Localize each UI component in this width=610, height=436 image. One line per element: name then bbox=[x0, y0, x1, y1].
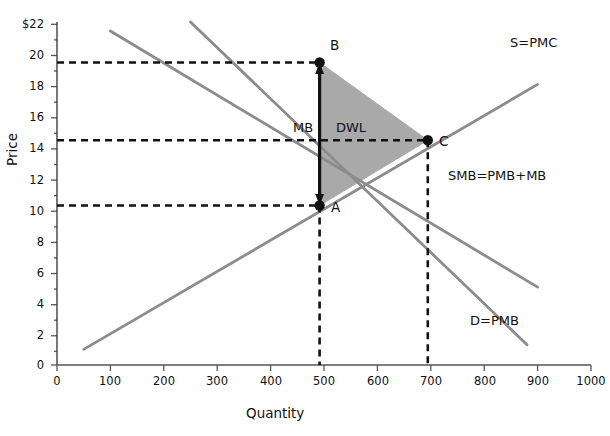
y-tick-label-18: 18 bbox=[10, 79, 44, 93]
point-a-label: A bbox=[331, 199, 340, 215]
point-b-marker bbox=[314, 57, 324, 67]
x-tick-label-900: 900 bbox=[516, 374, 560, 388]
x-axis-ticks bbox=[57, 365, 591, 371]
x-tick-label-0: 0 bbox=[35, 374, 79, 388]
x-tick-label-700: 700 bbox=[409, 374, 453, 388]
smb-curve-label: SMB=PMB+MB bbox=[448, 168, 546, 183]
point-c-label: C bbox=[439, 133, 448, 149]
x-axis-title: Quantity bbox=[246, 405, 304, 421]
y-tick-label-14: 14 bbox=[10, 141, 44, 155]
point-c-marker bbox=[423, 135, 433, 145]
y-tick-label-10: 10 bbox=[10, 204, 44, 218]
x-tick-label-300: 300 bbox=[195, 374, 239, 388]
y-tick-label-8: 8 bbox=[10, 235, 44, 249]
y-tick-label-16: 16 bbox=[10, 110, 44, 124]
dwl-label: DWL bbox=[336, 120, 366, 135]
x-tick-label-200: 200 bbox=[142, 374, 186, 388]
supply-curve-label: S=PMC bbox=[510, 35, 557, 50]
x-tick-label-1000: 1000 bbox=[569, 374, 610, 388]
y-tick-label-2: 2 bbox=[10, 328, 44, 342]
y-tick-label-0: 0 bbox=[10, 358, 44, 372]
demand-curve-label: D=PMB bbox=[470, 313, 519, 328]
y-tick-label-6: 6 bbox=[10, 266, 44, 280]
x-tick-label-600: 600 bbox=[356, 374, 400, 388]
point-a-marker bbox=[314, 200, 324, 210]
point-b-label: B bbox=[330, 37, 339, 53]
y-tick-label-12: 12 bbox=[10, 173, 44, 187]
mb-label: MB bbox=[293, 120, 313, 135]
y-axis-ticks bbox=[51, 24, 57, 365]
demand-curve bbox=[191, 22, 528, 345]
x-tick-label-800: 800 bbox=[463, 374, 507, 388]
x-tick-label-100: 100 bbox=[88, 374, 132, 388]
x-tick-label-500: 500 bbox=[302, 374, 346, 388]
y-tick-label-22: $22 bbox=[10, 17, 44, 31]
y-tick-label-20: 20 bbox=[10, 48, 44, 62]
y-tick-label-4: 4 bbox=[10, 297, 44, 311]
x-tick-label-400: 400 bbox=[249, 374, 293, 388]
